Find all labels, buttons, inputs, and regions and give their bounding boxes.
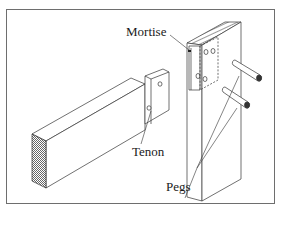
- mortise-label: Mortise: [126, 25, 166, 38]
- mortise-member: [187, 22, 241, 201]
- tenon-label: Tenon: [132, 145, 164, 158]
- pegs-label: Pegs: [166, 180, 191, 193]
- tenon-member: [32, 69, 169, 188]
